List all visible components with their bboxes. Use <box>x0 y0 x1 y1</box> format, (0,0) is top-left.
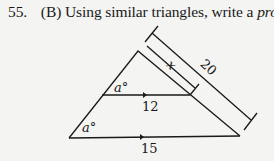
side-20-label: 20 <box>197 56 219 78</box>
bottom-base-label: 15 <box>141 141 158 156</box>
dimension-tick-top <box>145 26 158 42</box>
parallel-arrow-icon <box>140 134 144 140</box>
dimension-line-20 <box>152 33 251 120</box>
angle-label-top: a° <box>114 80 128 95</box>
similar-triangles-figure: a° a° 12 15 x 20 <box>0 0 274 161</box>
bottom-base-line <box>69 136 240 138</box>
side-x-label: x <box>164 57 180 74</box>
mid-base-label: 12 <box>142 99 159 114</box>
angle-label-bottom: a° <box>82 120 96 135</box>
parallel-arrow-icon <box>143 92 147 98</box>
